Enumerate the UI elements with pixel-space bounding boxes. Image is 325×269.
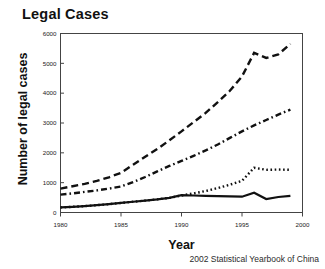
data-series-layer: [61, 44, 291, 207]
plot-area: 0100020003000400050006000 19801985199019…: [0, 0, 325, 269]
x-tick-label: 1990: [175, 221, 189, 228]
x-tick-label: 1985: [114, 221, 128, 228]
y-tick-label: 5000: [43, 60, 57, 67]
y-tick-label: 3000: [43, 119, 57, 126]
series-solid: [61, 193, 291, 208]
y-tick-label: 2000: [43, 149, 57, 156]
chart-figure: Legal Cases Number of legal cases Year 2…: [0, 0, 325, 269]
series-dotted: [61, 168, 291, 208]
y-tick-label: 4000: [43, 89, 57, 96]
x-tick-label: 1995: [235, 221, 249, 228]
axis-frame: [61, 34, 303, 213]
x-tick-label: 2000: [296, 221, 310, 228]
y-tick-label: 1000: [43, 179, 57, 186]
y-tick-label: 6000: [43, 30, 57, 37]
x-tick-label: 1980: [54, 221, 68, 228]
series-dashed: [61, 44, 291, 189]
y-tick-label: 0: [53, 209, 57, 216]
x-axis-ticks: 19801985199019952000: [54, 213, 310, 228]
